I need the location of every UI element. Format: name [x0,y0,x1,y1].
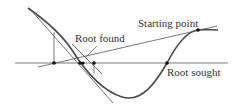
root-sought-dot [165,61,169,65]
tangent-second [30,9,113,103]
iterate-1-dot [52,61,56,65]
starting-point-label: Starting point [138,17,198,29]
root-found-dot [78,61,82,65]
newton-method-diagram: Starting point Root found Root sought [0,0,237,108]
root-found-label: Root found [75,32,125,44]
iterate-2-dot [92,61,96,65]
root-found-leader [85,46,97,58]
tangent-from-start [38,26,217,67]
tangent-third [72,44,102,74]
root-found-dot-2 [81,61,84,64]
root-sought-label: Root sought [167,66,220,78]
